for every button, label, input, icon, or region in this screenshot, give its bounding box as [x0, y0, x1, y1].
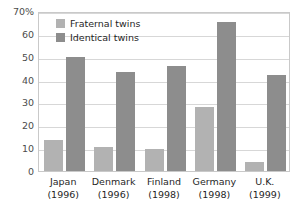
- bar-group: [245, 13, 286, 171]
- y-axis-tick-label: 60: [0, 30, 34, 40]
- y-axis-tick-label: 40: [0, 76, 34, 86]
- x-axis-tick-label: Japan(1996): [47, 176, 79, 201]
- y-axis: 70%6050403020100: [0, 12, 34, 172]
- bar-fraternal: [94, 147, 113, 171]
- x-axis-country-name: U.K.: [249, 176, 281, 189]
- bar-fraternal: [245, 162, 264, 171]
- y-axis-tick-label: 70%: [0, 7, 34, 17]
- legend-item: Identical twins: [56, 32, 140, 43]
- bar-identical: [217, 22, 236, 171]
- chart-legend: Fraternal twinsIdentical twins: [56, 18, 140, 43]
- legend-item-label: Fraternal twins: [70, 19, 140, 29]
- bar-identical: [66, 57, 85, 171]
- bar-group: [145, 13, 186, 171]
- x-axis-tick-label: Denmark(1996): [92, 176, 136, 201]
- x-axis-year: (1999): [249, 189, 281, 202]
- x-axis-tick-label: U.K.(1999): [249, 176, 281, 201]
- x-axis-country-name: Denmark: [92, 176, 136, 189]
- bar-identical: [167, 66, 186, 171]
- x-axis-year: (1998): [147, 189, 181, 202]
- legend-swatch-fraternal: [56, 19, 65, 28]
- bar-group: [195, 13, 236, 171]
- y-axis-tick-label: 50: [0, 53, 34, 63]
- bar-fraternal: [145, 149, 164, 171]
- y-axis-tick-label: 10: [0, 144, 34, 154]
- twin-concordance-bar-chart: 70%6050403020100 Fraternal twinsIdentica…: [0, 0, 303, 212]
- x-axis-country-name: Germany: [193, 176, 237, 189]
- y-axis-tick-label: 0: [0, 167, 34, 177]
- x-axis-country-name: Japan: [47, 176, 79, 189]
- x-axis: Japan(1996)Denmark(1996)Finland(1998)Ger…: [38, 176, 290, 208]
- y-axis-tick-label: 30: [0, 99, 34, 109]
- x-axis-year: (1996): [47, 189, 79, 202]
- bar-identical: [267, 75, 286, 171]
- legend-item: Fraternal twins: [56, 18, 140, 29]
- x-axis-year: (1996): [92, 189, 136, 202]
- x-axis-country-name: Finland: [147, 176, 181, 189]
- legend-item-label: Identical twins: [70, 33, 139, 43]
- x-axis-tick-label: Finland(1998): [147, 176, 181, 201]
- x-axis-tick-label: Germany(1998): [193, 176, 237, 201]
- x-axis-year: (1998): [193, 189, 237, 202]
- bar-fraternal: [195, 107, 214, 171]
- y-axis-tick-label: 20: [0, 122, 34, 132]
- bar-fraternal: [44, 140, 63, 171]
- bar-identical: [116, 72, 135, 171]
- legend-swatch-identical: [56, 33, 65, 42]
